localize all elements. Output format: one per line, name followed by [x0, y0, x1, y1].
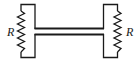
- right-resistor-zigzag: [114, 11, 121, 52]
- right-resistor-label: R: [126, 26, 133, 38]
- right-resistor-loop: [104, 5, 122, 58]
- left-resistor-loop: [18, 5, 36, 58]
- left-resistor-label: R: [7, 26, 14, 38]
- circuit-diagram: [0, 0, 139, 66]
- left-resistor-zigzag: [18, 11, 25, 52]
- double-wire-connector: [35, 29, 105, 35]
